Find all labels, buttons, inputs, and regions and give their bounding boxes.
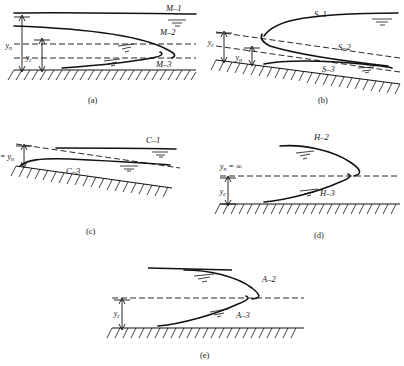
bed-hatching [107,328,296,338]
label-m2: M–2 [159,27,176,37]
label-s1: S–1 [314,9,327,19]
panel-steep-slope: yc yn S–1 S–2 S–3 (b) [202,0,404,110]
label-yc: yc [25,53,33,63]
panel-a-figure: yn yc M–1 M–2 M–3 [0,0,202,110]
profile-c1-curve [56,148,176,149]
water-surface-symbol-h2 [296,151,314,159]
panel-e-figure: yc A–2 A–3 [96,246,326,366]
water-surface-symbol-c3 [120,166,138,171]
water-surface-symbol-s1 [372,19,392,25]
label-yc: yc [113,309,121,319]
panel-horizontal-bed: yn = ∞ yc H–2 H–3 (d) [202,118,404,246]
panel-b-figure: yc yn S–1 S–2 S–3 [202,0,404,110]
water-surface-symbol-m2 [118,44,134,52]
profile-c3-curve [20,159,170,166]
panel-d-figure: yn = ∞ yc H–2 H–3 [202,118,404,246]
label-h2: H–2 [313,132,329,142]
label-yc-equals-yn: yc = yn [0,152,14,162]
profile-h2-curve [280,146,360,176]
water-surface-symbol-m1 [168,20,186,26]
profile-m2-curve [14,26,175,58]
channel-bed-line [16,166,172,188]
bed-hatching [11,166,168,197]
profile-a3-curve [158,296,248,326]
dimension-arrow-yn [14,15,30,72]
dimension-arrow-yn [244,46,260,66]
panel-adverse-slope: yc A–2 A–3 (e) [96,246,326,366]
label-h3: H–3 [319,188,335,198]
profile-s1-curve [264,13,398,36]
bed-hatching [8,70,196,80]
label-a3: A–3 [235,310,250,320]
caption-a: (a) [88,95,97,105]
label-yn-infinity: yn = ∞ [219,162,242,172]
panel-mild-slope: yn yc M–1 M–2 M–3 (a) [0,0,202,110]
normal-depth-line [216,46,400,72]
label-c1: C–1 [146,135,160,145]
label-m1: M–1 [165,3,182,13]
caption-b: (b) [318,95,328,105]
caption-e: (e) [200,350,209,360]
label-yc: yc [207,38,215,48]
label-s3: S–3 [322,64,335,74]
label-m3: M–3 [155,59,172,69]
dimension-arrow-yc [34,38,50,72]
caption-c: (c) [86,226,95,236]
dimension-arrow-yc [216,31,232,63]
label-s2: S–2 [338,42,352,52]
water-surface-symbol-a2 [194,274,214,282]
label-yn: yn [234,53,242,63]
label-yc: yc [219,187,227,197]
dimension-arrow-yc-yn [16,144,32,168]
label-a2: A–2 [261,274,276,284]
caption-d: (d) [314,230,324,240]
profile-a2-curve [184,270,259,299]
label-c3: C–3 [66,166,80,176]
bed-hatching [215,204,396,214]
panel-critical-slope: yc = yn C–1 C–3 (c) [0,118,202,240]
profile-h3-curve [264,174,350,202]
panel-c-figure: yc = yn C–1 C–3 [0,118,202,240]
label-yn: yn [4,41,12,51]
water-surface-symbol-c1 [152,152,168,157]
